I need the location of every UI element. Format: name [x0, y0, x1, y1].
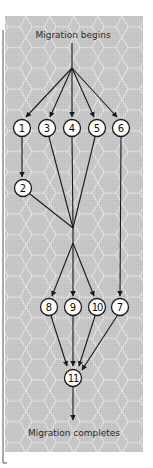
svg-text:2: 2: [20, 183, 26, 194]
node-7: 7: [112, 299, 129, 316]
svg-text:6: 6: [118, 123, 124, 134]
node-4: 4: [64, 120, 81, 137]
node-6: 6: [113, 120, 130, 137]
svg-text:5: 5: [94, 123, 100, 134]
node-8: 8: [41, 299, 58, 316]
node-11: 11: [65, 370, 82, 387]
start-label: Migration begins: [35, 30, 110, 40]
svg-text:4: 4: [69, 123, 75, 134]
node-3: 3: [39, 120, 56, 137]
svg-text:7: 7: [117, 302, 123, 313]
svg-text:9: 9: [70, 302, 76, 313]
node-2: 2: [15, 180, 32, 197]
svg-text:8: 8: [46, 302, 52, 313]
svg-text:10: 10: [92, 302, 103, 313]
node-9: 9: [65, 299, 82, 316]
node-5: 5: [89, 120, 106, 137]
end-label: Migration completes: [28, 428, 120, 438]
node-1: 1: [14, 120, 31, 137]
svg-text:3: 3: [44, 123, 50, 134]
svg-text:11: 11: [68, 373, 79, 384]
node-10: 10: [89, 299, 106, 316]
migration-dependency-diagram: Migration begins 1: [0, 0, 153, 468]
svg-text:1: 1: [19, 123, 25, 134]
